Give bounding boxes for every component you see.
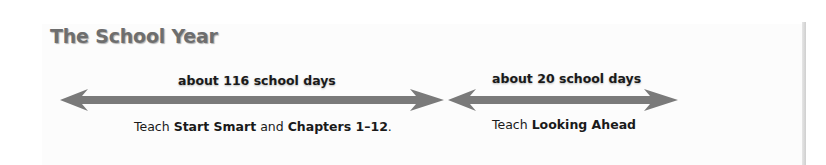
- segment-1-description: Teach Start Smart and Chapters 1–12.: [134, 119, 392, 134]
- double-arrow-icon: [60, 89, 444, 111]
- timeline-arrows: [0, 0, 826, 165]
- highlight-start-smart: Start Smart: [174, 119, 257, 134]
- segment-2-description: Teach Looking Ahead: [492, 117, 636, 132]
- double-arrow-icon: [448, 89, 678, 111]
- highlight-chapters: Chapters 1–12: [288, 119, 388, 134]
- highlight-looking-ahead: Looking Ahead: [532, 117, 636, 132]
